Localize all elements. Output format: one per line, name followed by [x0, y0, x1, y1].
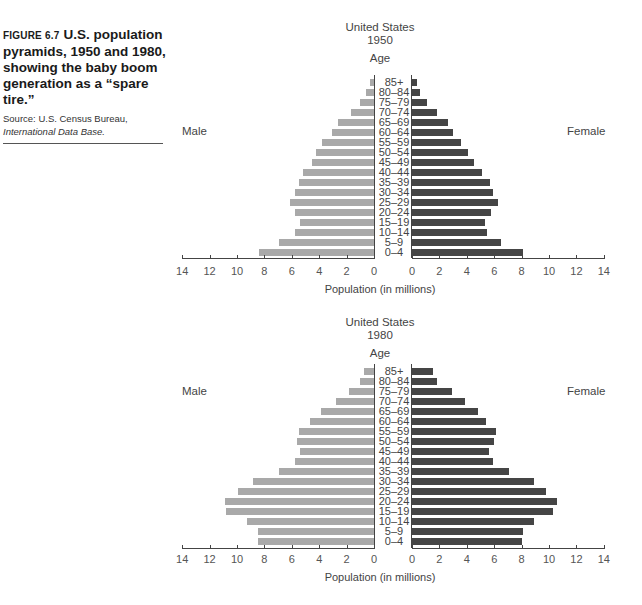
x-tick-label: 14 [594, 265, 614, 277]
x-tick [374, 255, 375, 259]
x-tick [264, 545, 265, 549]
male-bar [279, 239, 374, 246]
x-tick-label: 6 [282, 265, 302, 277]
male-bar [259, 249, 374, 256]
x-tick [292, 545, 293, 549]
male-bar [312, 159, 374, 166]
x-tick [576, 255, 577, 259]
female-bar [412, 428, 496, 435]
male-bar [303, 169, 374, 176]
female-bar [412, 368, 433, 375]
male-bar [316, 149, 374, 156]
left-x-axis [182, 548, 374, 549]
female-bar [412, 209, 491, 216]
x-tick [412, 255, 413, 259]
female-bar [412, 219, 485, 226]
female-bar [412, 139, 461, 146]
x-tick [210, 545, 211, 549]
x-tick-label: 4 [309, 553, 329, 565]
chart-year: 1980 [340, 329, 420, 342]
x-tick [237, 255, 238, 259]
x-tick-label: 6 [484, 553, 504, 565]
caption-rule [3, 143, 163, 144]
x-tick [237, 545, 238, 549]
female-bar [412, 109, 437, 116]
source-italic: International Data Base. [3, 126, 105, 137]
male-bar [279, 468, 374, 475]
x-tick-label: 4 [457, 553, 477, 565]
x-tick [604, 545, 605, 549]
male-bar [300, 448, 374, 455]
x-tick [182, 255, 183, 259]
left-zero-line [374, 75, 375, 258]
female-bar [412, 458, 493, 465]
male-bar [332, 129, 374, 136]
male-bar [295, 189, 374, 196]
female-bar [412, 408, 478, 415]
x-tick [549, 545, 550, 549]
female-bar [412, 119, 448, 126]
female-bar [412, 498, 557, 505]
x-tick-label: 2 [429, 265, 449, 277]
x-tick [522, 545, 523, 549]
female-bar [412, 488, 546, 495]
male-bar [247, 518, 374, 525]
chart-year: 1950 [340, 34, 420, 47]
x-tick-label: 0 [402, 553, 422, 565]
female-bar [412, 508, 553, 515]
female-bar [412, 99, 427, 106]
female-bar [412, 169, 482, 176]
x-tick-label: 12 [566, 553, 586, 565]
male-bar [253, 478, 374, 485]
male-bar [290, 199, 374, 206]
male-bar [322, 139, 374, 146]
male-bar [364, 368, 374, 375]
x-tick-label: 8 [512, 553, 532, 565]
chart-title: United States [340, 21, 420, 34]
x-tick-label: 14 [594, 553, 614, 565]
caption-title: FIGURE 6.7U.S. population pyramids, 1950… [3, 27, 168, 108]
male-bar [225, 498, 374, 505]
x-tick-label: 10 [227, 553, 247, 565]
female-bar [412, 179, 490, 186]
female-label: Female [567, 125, 605, 137]
female-bar [412, 79, 417, 86]
female-bar [412, 129, 453, 136]
female-bar [412, 229, 487, 236]
female-bar [412, 468, 509, 475]
x-tick-label: 12 [200, 553, 220, 565]
x-tick [439, 545, 440, 549]
male-label: Male [182, 125, 207, 137]
male-bar [258, 528, 374, 535]
x-tick-label: 2 [337, 553, 357, 565]
figure-label: FIGURE 6.7 [3, 30, 59, 41]
x-tick-label: 2 [337, 265, 357, 277]
x-tick-label: 6 [282, 553, 302, 565]
x-tick [494, 255, 495, 259]
male-label: Male [182, 385, 207, 397]
female-bar [412, 438, 494, 445]
x-tick [347, 255, 348, 259]
chart-title: United States [340, 316, 420, 329]
female-bar [412, 89, 420, 96]
x-tick-label: 10 [227, 265, 247, 277]
x-tick [319, 545, 320, 549]
x-tick-label: 8 [512, 265, 532, 277]
female-bar [412, 388, 452, 395]
male-bar [299, 179, 374, 186]
x-tick [210, 255, 211, 259]
x-tick [494, 545, 495, 549]
x-tick-label: 14 [172, 553, 192, 565]
male-bar [360, 99, 374, 106]
male-bar [295, 458, 374, 465]
female-bar [412, 538, 522, 545]
x-tick-label: 10 [539, 553, 559, 565]
female-bar [412, 159, 474, 166]
male-bar [300, 219, 374, 226]
x-tick [549, 255, 550, 259]
x-tick [292, 255, 293, 259]
left-zero-line [374, 364, 375, 548]
x-tick-label: 6 [484, 265, 504, 277]
caption-source: Source: U.S. Census Bureau, Internationa… [3, 112, 168, 138]
female-label: Female [567, 385, 605, 397]
